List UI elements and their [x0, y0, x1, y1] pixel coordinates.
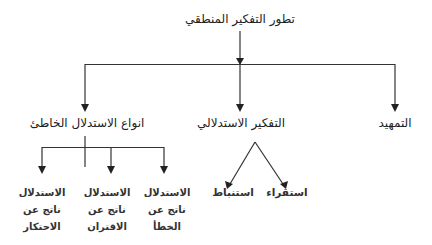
node-deduction: استنباط: [212, 186, 254, 198]
node-error-line2: ناتج عن: [139, 201, 195, 218]
node-error-line3: الخطأ: [139, 218, 195, 235]
arrow-head-icon: [38, 166, 46, 174]
node-error-line1: الاستدلال: [139, 184, 195, 201]
root-node-title: تطور التفكير المنطقي: [185, 12, 295, 26]
node-monopoly-line2: ناتج عن: [14, 201, 70, 218]
node-association: الاستدلال ناتج عن الاقتران: [79, 184, 135, 235]
node-monopoly-line3: الاحتكار: [14, 218, 70, 235]
node-monopoly: الاستدلال ناتج عن الاحتكار: [14, 184, 70, 235]
node-error: الاستدلال ناتج عن الخطأ: [139, 184, 195, 235]
node-deductive: التفكير الاستدلالي: [197, 116, 285, 130]
branch-deduction: [230, 142, 255, 184]
node-association-line1: الاستدلال: [79, 184, 135, 201]
arrow-head-icon: [81, 104, 89, 112]
node-association-line2: ناتج عن: [79, 201, 135, 218]
arrow-head-icon: [107, 166, 115, 174]
node-induction: استقراء: [266, 186, 307, 198]
node-intro: التمهيد: [379, 116, 412, 130]
branch-induction: [255, 142, 283, 184]
arrow-head-icon: [391, 104, 399, 112]
arrow-head-icon: [236, 104, 244, 112]
arrow-head-icon: [160, 166, 168, 174]
node-association-line3: الاقتران: [79, 218, 135, 235]
node-fallacies: انواع الاستدلال الخاطئ: [30, 116, 145, 130]
node-monopoly-line1: الاستدلال: [14, 184, 70, 201]
